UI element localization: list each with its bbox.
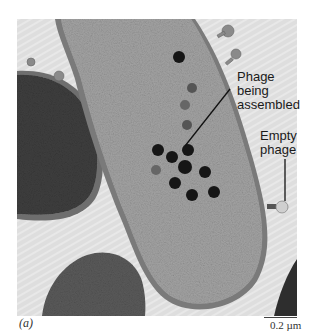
micrograph-illustration (17, 19, 297, 316)
label-line: Phage (237, 70, 300, 84)
label-line: Empty (260, 129, 297, 143)
label-line: being (237, 84, 300, 98)
label-line: phage (260, 143, 297, 157)
electron-micrograph (17, 19, 297, 316)
scale-bar (264, 317, 297, 318)
figure: Phage being assembled Empty phage (a) 0.… (0, 0, 312, 334)
label-empty-phage: Empty phage (260, 129, 297, 157)
scale-bar-label: 0.2 µm (270, 319, 301, 331)
label-line: assembled (237, 98, 300, 112)
label-phage-being-assembled: Phage being assembled (237, 70, 300, 112)
panel-label: (a) (19, 316, 33, 331)
